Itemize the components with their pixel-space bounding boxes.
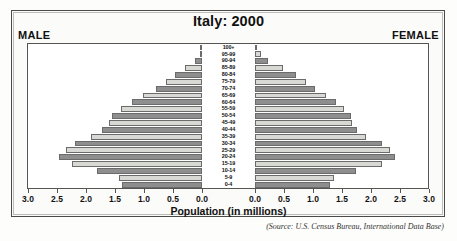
pyramid-row — [28, 113, 202, 120]
pyramid-row — [255, 71, 429, 78]
female-side-label: FEMALE — [392, 29, 439, 41]
bar-male-75-79 — [166, 79, 202, 85]
bar-female-70-74 — [255, 86, 315, 92]
male-side-label: MALE — [18, 29, 50, 41]
axis-tick-label: 0.5 — [167, 194, 179, 204]
pyramid-row — [255, 44, 429, 51]
bar-female-40-44 — [255, 127, 357, 133]
pyramid-row — [255, 92, 429, 99]
population-pyramid-figure: Italy: 2000 MALE FEMALE 100+95-9990-9485… — [0, 0, 457, 241]
pyramid-row — [28, 181, 202, 188]
pyramid-row — [255, 167, 429, 174]
pyramid-row — [255, 85, 429, 92]
pyramid-row — [28, 147, 202, 154]
bar-male-55-59 — [121, 106, 202, 112]
bar-female-20-24 — [255, 154, 395, 160]
bar-female-30-34 — [255, 141, 382, 147]
axis-tick — [202, 189, 203, 193]
axis-tick-label: 0.5 — [278, 194, 290, 204]
x-axis-title: Population (in millions) — [0, 205, 457, 217]
pyramid-row — [255, 140, 429, 147]
bar-female-55-59 — [255, 106, 344, 112]
female-bars-panel — [255, 44, 429, 188]
pyramid-row — [255, 181, 429, 188]
axis-tick-label: 2.0 — [365, 194, 377, 204]
pyramid-row — [28, 71, 202, 78]
age-group-axis: 100+95-9990-9485-8980-8475-7970-7465-696… — [202, 44, 255, 188]
axis-tick — [342, 189, 343, 193]
bar-male-50-54 — [112, 113, 202, 119]
chart-title: Italy: 2000 — [0, 13, 457, 29]
pyramid-row — [28, 92, 202, 99]
bar-male-0-4 — [122, 182, 202, 188]
bar-male-70-74 — [156, 86, 202, 92]
bar-male-15-19 — [72, 161, 203, 167]
pyramid-row — [28, 161, 202, 168]
pyramid-row — [255, 147, 429, 154]
bar-male-85-89 — [185, 65, 202, 71]
axis-tick — [400, 189, 401, 193]
bar-female-5-9 — [255, 175, 334, 181]
bar-male-5-9 — [119, 175, 202, 181]
bar-female-65-69 — [255, 93, 326, 99]
bar-female-90-94 — [255, 58, 268, 64]
bar-male-40-44 — [102, 127, 202, 133]
axis-tick-label: 0.0 — [196, 194, 208, 204]
pyramid-row — [28, 133, 202, 140]
bar-female-85-89 — [255, 65, 283, 71]
bar-male-30-34 — [75, 141, 202, 147]
bar-female-10-14 — [255, 168, 356, 174]
pyramid-row — [255, 58, 429, 65]
pyramid-row — [255, 99, 429, 106]
axis-tick — [429, 189, 430, 193]
pyramid-row — [255, 51, 429, 58]
pyramid-row — [28, 65, 202, 72]
pyramid-row — [28, 126, 202, 133]
pyramid-row — [255, 119, 429, 126]
bar-female-0-4 — [255, 182, 330, 188]
axis-tick — [57, 189, 58, 193]
axis-tick — [284, 189, 285, 193]
age-group-label: 70-74 — [202, 85, 255, 92]
age-group-label: 65-69 — [202, 92, 255, 99]
axis-tick-label: 2.0 — [80, 194, 92, 204]
pyramid-row — [255, 174, 429, 181]
bar-female-15-19 — [255, 161, 382, 167]
age-group-label: 0-4 — [202, 181, 255, 188]
axis-tick — [28, 189, 29, 193]
bar-male-35-39 — [91, 134, 202, 140]
pyramid-row — [28, 140, 202, 147]
bar-male-25-29 — [66, 147, 202, 153]
axis-tick-label: 0.0 — [249, 194, 261, 204]
axis-tick-label: 2.5 — [51, 194, 63, 204]
bar-male-10-14 — [97, 168, 202, 174]
pyramid-row — [28, 78, 202, 85]
pyramid-row — [28, 44, 202, 51]
axis-tick-label: 1.0 — [138, 194, 150, 204]
pyramid-row — [28, 51, 202, 58]
bar-female-75-79 — [255, 79, 306, 85]
axis-tick — [313, 189, 314, 193]
bar-female-25-29 — [255, 147, 390, 153]
pyramid-row — [255, 65, 429, 72]
pyramid-row — [28, 119, 202, 126]
pyramid-row — [255, 106, 429, 113]
axis-tick-label: 3.0 — [423, 194, 435, 204]
axis-tick-label: 1.5 — [336, 194, 348, 204]
bar-male-20-24 — [59, 154, 202, 160]
age-group-label: 35-39 — [202, 133, 255, 140]
bar-female-45-49 — [255, 120, 352, 126]
pyramid-row — [255, 126, 429, 133]
pyramid-row — [28, 106, 202, 113]
bar-female-100+ — [255, 45, 257, 51]
bar-male-45-49 — [109, 120, 202, 126]
bar-female-50-54 — [255, 113, 351, 119]
pyramid-row — [255, 113, 429, 120]
pyramid-row — [255, 78, 429, 85]
axis-tick — [255, 189, 256, 193]
bar-female-60-64 — [255, 99, 336, 105]
bar-male-60-64 — [132, 99, 202, 105]
axis-tick — [173, 189, 174, 193]
axis-tick — [371, 189, 372, 193]
pyramid-row — [28, 167, 202, 174]
